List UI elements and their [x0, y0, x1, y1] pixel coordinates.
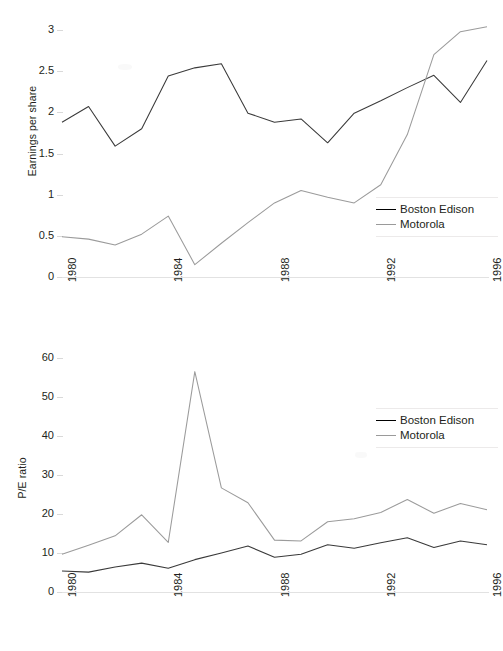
plot-area-pe: P/E ratio 0102030405060 1980198419881992…: [0, 330, 503, 651]
legend-earnings: Boston Edison Motorola: [376, 197, 498, 237]
legend-item-boston-edison[interactable]: Boston Edison: [376, 413, 498, 428]
series-line-boston-edison: [62, 538, 487, 572]
series-line-motorola: [62, 372, 487, 555]
legend-label-motorola: Motorola: [400, 217, 445, 232]
legend-swatch-motorola-icon: [376, 435, 396, 436]
legend-swatch-boston-edison-icon: [376, 420, 396, 421]
chart-pe-ratio: P/E ratio 0102030405060 1980198419881992…: [0, 330, 503, 651]
series-lines-pe: [0, 330, 503, 651]
legend-item-boston-edison[interactable]: Boston Edison: [376, 202, 498, 217]
legend-label-motorola: Motorola: [400, 428, 445, 443]
legend-pe: Boston Edison Motorola: [376, 408, 498, 448]
plot-area-earnings: Earnings per share 00.511.522.53 1980198…: [0, 0, 503, 330]
legend-item-motorola[interactable]: Motorola: [376, 217, 498, 232]
legend-label-boston-edison: Boston Edison: [400, 202, 474, 217]
legend-item-motorola[interactable]: Motorola: [376, 428, 498, 443]
legend-label-boston-edison: Boston Edison: [400, 413, 474, 428]
legend-swatch-boston-edison-icon: [376, 209, 396, 210]
legend-swatch-motorola-icon: [376, 224, 396, 225]
series-lines-earnings: [0, 0, 503, 330]
series-line-boston-edison: [62, 60, 487, 146]
chart-earnings-per-share: Earnings per share 00.511.522.53 1980198…: [0, 0, 503, 330]
